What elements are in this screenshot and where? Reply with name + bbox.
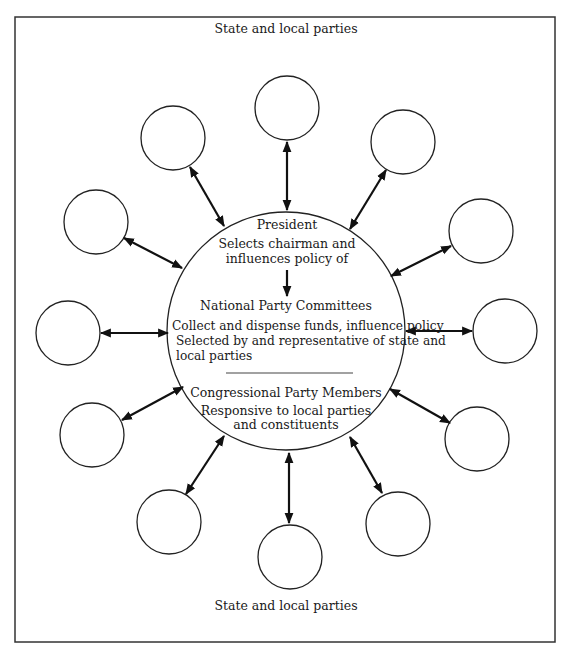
state-local-party-circle [36,301,100,365]
congressional-members-title: Congressional Party Members [190,385,382,400]
double-arrow-icon [186,436,224,494]
congressional-members-description: Responsive to local parties [201,403,371,418]
state-local-party-circle [137,490,201,554]
state-local-party-circle [449,199,513,263]
president-description: Selects chairman and [218,236,355,251]
top-label: State and local parties [214,21,357,36]
president-description: influences policy of [226,251,350,266]
state-local-party-circle [141,106,205,170]
national-committees-title: National Party Committees [200,298,372,313]
double-arrow-icon [391,246,451,276]
national-committees-description: local parties [176,349,252,363]
national-committees-description: Collect and dispense funds, influence po… [172,319,444,333]
state-local-party-circle [64,190,128,254]
double-arrow-icon [122,387,183,420]
congressional-members-description: and constituents [233,417,338,432]
double-arrow-icon [350,437,382,493]
party-structure-diagram: State and local parties State and local … [0,0,570,653]
state-local-party-circle [366,492,430,556]
state-local-party-circle [60,403,124,467]
double-arrow-icon [190,167,224,226]
state-local-party-circle [258,525,322,589]
double-arrow-icon [124,238,182,268]
state-local-party-circle [473,299,537,363]
double-arrow-icon [390,389,450,423]
state-local-party-circle [371,110,435,174]
double-arrow-icon [350,170,386,229]
state-local-party-circle [445,407,509,471]
bottom-label: State and local parties [214,598,357,613]
president-title: President [257,217,318,232]
national-committees-description: Selected by and representative of state … [176,334,446,348]
state-local-party-circle [255,76,319,140]
